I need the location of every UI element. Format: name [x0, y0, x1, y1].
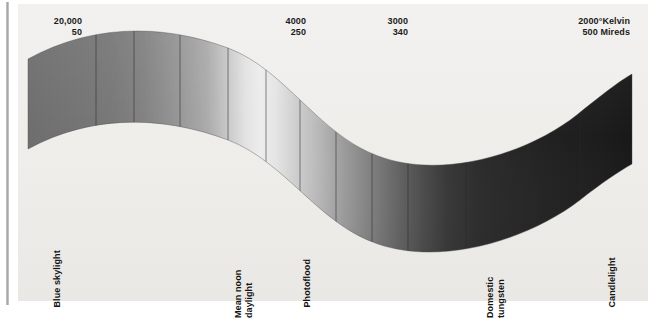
scale-tick-mired: 340 — [360, 27, 408, 38]
scale-tick-2000k: 2000°Kelvin 500 Mireds — [520, 16, 630, 38]
panel-background — [18, 4, 648, 301]
page-margin-rule — [6, 2, 9, 305]
scale-tick-mired: 50 — [12, 27, 82, 38]
source-label-blue-skylight: Blue skylight — [52, 250, 63, 307]
scale-tick-3000k: 3000 340 — [360, 16, 408, 38]
source-label-photoflood: Photoflood — [302, 259, 313, 307]
scale-tick-kelvin: 2000°Kelvin — [520, 16, 630, 27]
scale-tick-mired: 500 Mireds — [520, 27, 630, 38]
scale-tick-mired: 250 — [258, 27, 306, 38]
diagram-panel — [18, 4, 648, 301]
scale-tick-kelvin: 4000 — [258, 16, 306, 27]
source-label-mean-noon-daylight: Mean noon daylight — [233, 270, 254, 318]
source-label-domestic-tungsten: Domestic tungsten — [485, 277, 506, 318]
source-label-candlelight: Candlelight — [607, 257, 618, 307]
scale-tick-20000k: 20,000 50 — [12, 16, 82, 38]
scale-tick-kelvin: 3000 — [360, 16, 408, 27]
scale-tick-kelvin: 20,000 — [12, 16, 82, 27]
scale-tick-4000k: 4000 250 — [258, 16, 306, 38]
